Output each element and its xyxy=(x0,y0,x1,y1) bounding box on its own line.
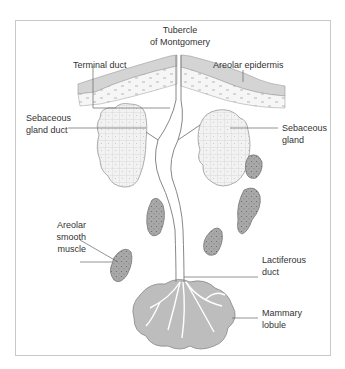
label-tubercle-of-montgomery: Tubercle of Montgomery xyxy=(150,24,210,48)
label-areolar-epidermis: Areolar epidermis xyxy=(213,59,284,71)
label-sebaceous-gland-duct: Sebaceous gland duct xyxy=(26,112,66,136)
sebaceous-gland-right xyxy=(198,110,250,186)
label-mammary-lobule: Mammary lobule xyxy=(262,307,302,331)
sebaceous-gland-left xyxy=(97,104,147,188)
label-terminal-duct: Terminal duct xyxy=(73,59,127,71)
label-lactiferous-duct: Lactiferous duct xyxy=(262,254,306,278)
label-sebaceous-gland: Sebaceous gland xyxy=(282,122,327,146)
label-areolar-smooth-muscle: Areolar smooth muscle xyxy=(36,219,86,255)
